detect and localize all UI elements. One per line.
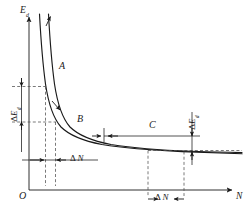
ed-n-curve-figure: Ed N O A B C ΔEd ΔEd Δ N Δ N xyxy=(0,0,251,216)
delta-ed-left-label: ΔEd xyxy=(10,93,21,137)
left-number-construction xyxy=(22,87,98,187)
delta-n-left-label: Δ N xyxy=(70,154,84,163)
figure-canvas xyxy=(0,0,251,216)
curve-label-a: A xyxy=(59,61,65,71)
curve-shifted xyxy=(49,14,243,153)
knee-gap-indicator xyxy=(92,128,200,142)
curve-group xyxy=(40,14,243,154)
curve-label-b: B xyxy=(77,114,83,124)
delta-n-right-label: Δ N xyxy=(155,193,169,202)
x-axis-label: N xyxy=(236,192,242,202)
curve-label-c: C xyxy=(149,120,156,130)
delta-ed-right-label: ΔEd xyxy=(188,101,199,145)
curve-original xyxy=(40,14,243,154)
axis-group xyxy=(29,17,232,190)
origin-label: O xyxy=(19,191,26,201)
y-axis-label: Ed xyxy=(20,6,29,18)
